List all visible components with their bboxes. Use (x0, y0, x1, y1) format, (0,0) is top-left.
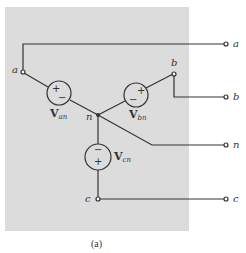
vcn-plus: + (94, 156, 102, 167)
terminal-c-label: c (233, 193, 239, 204)
terminal-c (224, 197, 228, 201)
node-n-dot (96, 113, 100, 117)
node-a-dot (21, 70, 25, 74)
node-c-label: c (85, 193, 91, 204)
wye-source-diagram: + − + − − + Van Vbn Vcn a b n c a b n c … (0, 0, 246, 253)
terminal-n-label: n (233, 139, 239, 150)
figure-caption: (a) (91, 238, 102, 250)
terminal-b-label: b (233, 91, 239, 102)
van-minus: − (58, 92, 66, 103)
terminal-b (224, 95, 228, 99)
node-b-label: b (171, 57, 177, 68)
terminal-n (224, 143, 228, 147)
vcn-minus: − (94, 144, 102, 155)
terminal-a-label: a (233, 38, 239, 49)
vbn-minus: − (129, 94, 137, 105)
node-a-label: a (12, 64, 18, 75)
terminal-a (224, 42, 228, 46)
node-n-label: n (86, 111, 92, 122)
node-b-dot (172, 72, 176, 76)
vbn-plus: + (137, 85, 145, 96)
node-c-dot (96, 197, 100, 201)
